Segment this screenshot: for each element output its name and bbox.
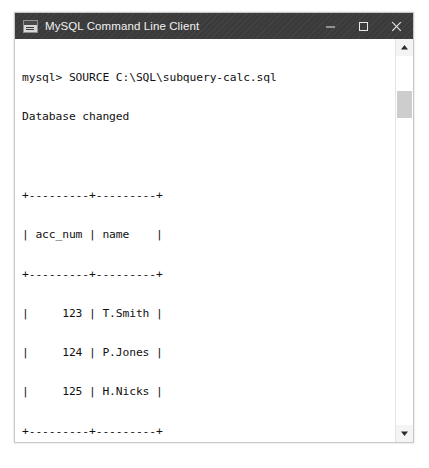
scrollbar-thumb[interactable] (397, 91, 412, 118)
minimize-button[interactable] (314, 13, 347, 39)
console-icon (23, 20, 38, 33)
maximize-button[interactable] (347, 13, 380, 39)
console-line: Database changed (22, 110, 395, 123)
close-button[interactable] (380, 13, 413, 39)
console-line: | 123 | T.Smith | (22, 307, 395, 320)
console-line: | 124 | P.Jones | (22, 346, 395, 359)
title-bar[interactable]: MySQL Command Line Client (15, 13, 413, 39)
scroll-up-button[interactable] (396, 39, 413, 56)
scroll-down-button[interactable] (396, 425, 413, 442)
console-line: | acc_num | name | (22, 228, 395, 241)
window-controls (314, 13, 413, 39)
console-line: | 125 | H.Nicks | (22, 385, 395, 398)
window-title: MySQL Command Line Client (45, 20, 199, 32)
client-area: mysql> SOURCE C:\SQL\subquery-calc.sql D… (15, 39, 413, 442)
console-line: +---------+---------+ (22, 268, 395, 281)
console-output[interactable]: mysql> SOURCE C:\SQL\subquery-calc.sql D… (15, 39, 395, 442)
console-line (22, 150, 395, 163)
scrollbar-track[interactable] (396, 56, 413, 425)
console-line: mysql> SOURCE C:\SQL\subquery-calc.sql (22, 71, 395, 84)
mysql-command-line-window: MySQL Command Line Client mysq (14, 12, 414, 443)
console-line: +---------+---------+ (22, 189, 395, 202)
vertical-scrollbar[interactable] (395, 39, 413, 442)
console-line: +---------+---------+ (22, 425, 395, 438)
